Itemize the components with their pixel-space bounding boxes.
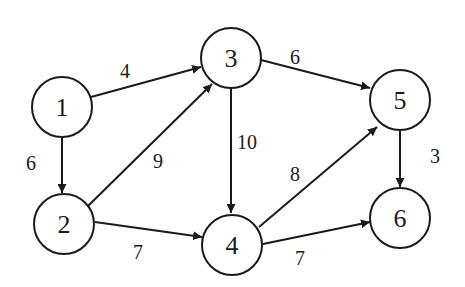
node-label: 6 bbox=[394, 204, 407, 233]
node-label: 1 bbox=[56, 93, 69, 122]
graph-canvas: 4 6 9 7 6 10 8 7 3 1 2 3 4 5 6 bbox=[0, 0, 465, 287]
node-label: 2 bbox=[58, 210, 71, 239]
edge-1-3 bbox=[91, 67, 201, 97]
edge-2-4 bbox=[95, 222, 202, 237]
edge-2-3 bbox=[88, 84, 212, 206]
node-4: 4 bbox=[202, 215, 262, 275]
weight-label-1-2: 6 bbox=[26, 152, 36, 174]
node-3: 3 bbox=[201, 28, 261, 88]
node-6: 6 bbox=[370, 188, 430, 248]
node-label: 5 bbox=[394, 86, 407, 115]
node-label: 3 bbox=[225, 44, 238, 73]
edge-4-6 bbox=[263, 222, 370, 244]
weight-label-1-3: 4 bbox=[120, 60, 130, 82]
weight-label-2-3: 9 bbox=[153, 150, 163, 172]
weight-label-4-5: 8 bbox=[290, 163, 300, 185]
weight-label-2-4: 7 bbox=[133, 241, 143, 263]
weight-label-3-4: 10 bbox=[237, 131, 257, 153]
node-1: 1 bbox=[32, 77, 92, 137]
node-5: 5 bbox=[370, 70, 430, 130]
weight-label-4-6: 7 bbox=[295, 247, 305, 269]
edge-4-5 bbox=[259, 127, 377, 227]
node-label: 4 bbox=[226, 231, 239, 260]
edge-3-5 bbox=[261, 60, 370, 88]
weight-label-3-5: 6 bbox=[290, 46, 300, 68]
node-2: 2 bbox=[34, 194, 94, 254]
weight-label-5-6: 3 bbox=[430, 145, 440, 167]
